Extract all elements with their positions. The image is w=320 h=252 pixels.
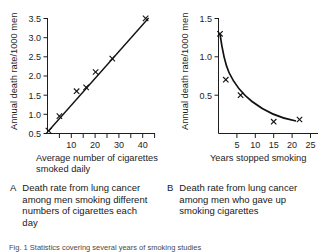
- chart-a-y-axis-title: Annual death rate/1000 men: [9, 13, 19, 130]
- caption-letter-b: B: [167, 182, 173, 194]
- data-point: [271, 119, 276, 124]
- chart-panel-b: Annual death rate/1000 men 1.5 1.0 0.5: [158, 0, 318, 178]
- chart-a-x-axis-title-line1: Average number of cigarettes: [36, 153, 158, 163]
- chart-a-y-tick-2-0: 2.0: [28, 71, 41, 81]
- chart-b-x-tick-15: 15: [269, 140, 279, 150]
- figure-captions: A Death rate from lung cancer among men …: [0, 182, 320, 240]
- figure-note: Fig. 1 Statistics covering several years…: [9, 243, 311, 252]
- chart-a-plot: Annual death rate/1000 men 3.5 3.0 2.5 2…: [0, 0, 160, 178]
- chart-b-axes: [219, 18, 319, 134]
- chart-b-x-tick-10: 10: [250, 140, 260, 150]
- chart-a-x-ticks: 10 20 30 40: [59, 134, 154, 151]
- chart-a-x-tick-20: 20: [90, 140, 100, 150]
- chart-a-y-ticks: 3.5 3.0 2.5 2.0 1.5 1.0 0.5: [28, 14, 47, 139]
- chart-b-y-tick-0-5: 0.5: [199, 91, 212, 101]
- chart-b-x-tick-25: 25: [305, 140, 315, 150]
- chart-b-y-tick-1-5: 1.5: [199, 14, 212, 24]
- caption-panel-a: A Death rate from lung cancer among men …: [0, 182, 158, 240]
- chart-a-axes: [48, 18, 156, 134]
- chart-a-y-tick-3-5: 3.5: [28, 14, 41, 24]
- chart-a-y-tick-3-0: 3.0: [28, 33, 41, 43]
- data-point: [74, 89, 79, 94]
- data-point: [238, 93, 243, 98]
- chart-a-x-tick-10: 10: [66, 140, 76, 150]
- chart-b-plot: Annual death rate/1000 men 1.5 1.0 0.5: [158, 0, 320, 178]
- chart-a-y-tick-1-5: 1.5: [28, 91, 41, 101]
- data-point: [297, 117, 302, 122]
- chart-b-x-tick-5: 5: [234, 140, 239, 150]
- chart-b-x-ticks: 5 10 15 20 25: [234, 134, 315, 151]
- caption-panel-b: B Death rate from lung cancer among men …: [158, 182, 320, 240]
- caption-text-a: Death rate from lung cancer among men sm…: [22, 182, 150, 228]
- data-point: [223, 77, 228, 82]
- chart-b-x-tick-20: 20: [287, 140, 297, 150]
- chart-a-fit-line: [49, 18, 149, 131]
- chart-a-y-tick-1-0: 1.0: [28, 110, 41, 120]
- chart-panel-a: Annual death rate/1000 men 3.5 3.0 2.5 2…: [0, 0, 160, 178]
- caption-letter-a: A: [10, 182, 16, 194]
- chart-b-y-ticks: 1.5 1.0 0.5: [199, 14, 218, 101]
- data-point: [110, 56, 115, 61]
- chart-a-y-tick-2-5: 2.5: [28, 52, 41, 62]
- chart-b-fit-curve: [220, 34, 296, 121]
- caption-text-b: Death rate from lung cancer among men wh…: [179, 182, 307, 217]
- chart-a-x-tick-30: 30: [114, 140, 124, 150]
- chart-a-x-tick-40: 40: [138, 140, 148, 150]
- chart-a-x-axis-title-line2: smoked daily: [36, 164, 91, 174]
- chart-b-y-axis-title: Annual death rate/1000 men: [180, 13, 190, 130]
- chart-a-y-tick-0-5: 0.5: [28, 129, 41, 139]
- data-point: [93, 69, 98, 74]
- data-point: [46, 128, 52, 134]
- figure-area: Annual death rate/1000 men 3.5 3.0 2.5 2…: [0, 0, 320, 178]
- chart-b-y-tick-1-0: 1.0: [199, 52, 212, 62]
- chart-b-x-axis-title: Years stopped smoking: [210, 153, 306, 163]
- chart-b-data-points: [217, 31, 302, 124]
